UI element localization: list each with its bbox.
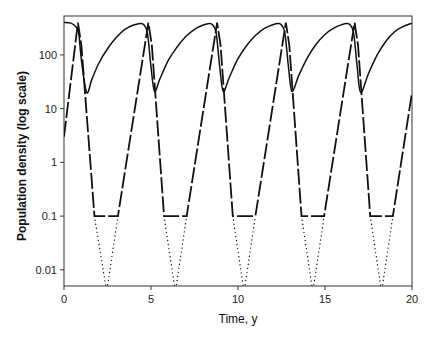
series-dotted-line — [94, 216, 392, 286]
x-axis-title: Time, y — [219, 312, 258, 326]
x-tick-label: 5 — [148, 293, 154, 305]
y-tick-label: 0.01 — [36, 264, 57, 276]
series-dashed-line — [64, 23, 412, 217]
population-chart: 05101520 0.010.1110100 Population densit… — [0, 0, 438, 340]
x-tick-label: 20 — [406, 293, 418, 305]
x-tick-label: 15 — [319, 293, 331, 305]
x-axis: 05101520 — [61, 286, 418, 305]
y-tick-label: 10 — [45, 103, 57, 115]
plot-frame — [64, 16, 412, 286]
x-tick-label: 10 — [232, 293, 244, 305]
y-tick-label: 0.1 — [42, 210, 57, 222]
y-axis: 0.010.1110100 — [36, 49, 64, 276]
y-axis-title: Population density (log scale) — [15, 71, 29, 241]
series-layer — [64, 23, 412, 286]
y-tick-label: 100 — [39, 49, 57, 61]
x-tick-label: 0 — [61, 293, 67, 305]
y-tick-label: 1 — [51, 156, 57, 168]
